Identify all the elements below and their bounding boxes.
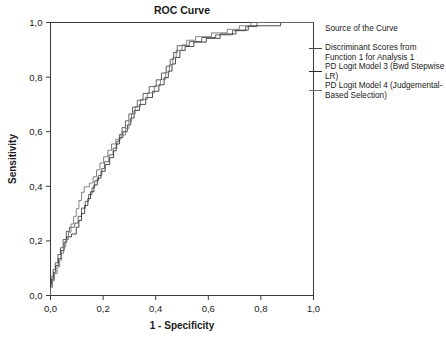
- y-tick-label: 1,0: [29, 17, 42, 28]
- y-tick-label: 0,8: [29, 72, 42, 83]
- roc-curve-series-1: [51, 23, 314, 296]
- legend-title: Source of the Curve: [325, 24, 446, 34]
- legend-entry: Discriminant Scores from Function 1 for …: [325, 43, 446, 62]
- chart-legend: Source of the Curve Discriminant Scores …: [325, 24, 446, 101]
- x-tick-label: 0,4: [149, 303, 162, 314]
- plot-frame: [51, 23, 314, 296]
- y-axis-label: Sensitivity: [7, 134, 18, 184]
- x-axis-label: 1 - Specificity: [150, 320, 215, 331]
- roc-curve-figure: 0,00,20,40,60,81,00,00,20,40,60,81,0ROC …: [0, 0, 446, 344]
- y-tick-label: 0,4: [29, 181, 42, 192]
- y-tick-label: 0,6: [29, 126, 42, 137]
- legend-entry: PD Logit Model 3 (Bwd Stepwise LR): [325, 62, 446, 81]
- x-tick-label: 0,6: [202, 303, 215, 314]
- roc-curve-series-2: [51, 23, 314, 296]
- y-tick-label: 0,0: [29, 290, 42, 301]
- x-tick-label: 0,8: [254, 303, 267, 314]
- y-tick-label: 0,2: [29, 235, 42, 246]
- legend-entry: PD Logit Model 4 (Judgemental-Based Sele…: [325, 81, 446, 100]
- chart-title: ROC Curve: [154, 4, 210, 16]
- x-tick-label: 0,2: [96, 303, 109, 314]
- legend-entry-list: Discriminant Scores from Function 1 for …: [325, 43, 446, 101]
- x-tick-label: 0,0: [44, 303, 57, 314]
- roc-curve-series-3: [51, 23, 314, 296]
- x-tick-label: 1,0: [307, 303, 320, 314]
